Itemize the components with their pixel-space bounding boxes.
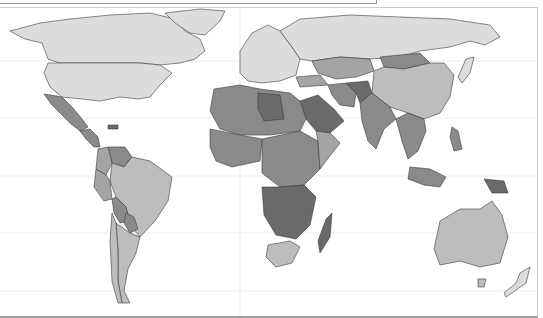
region-south-africa[interactable] — [266, 241, 300, 267]
region-southeast-asia[interactable] — [396, 113, 426, 159]
region-mexico[interactable] — [44, 94, 88, 131]
region-australia[interactable] — [434, 201, 508, 267]
region-north-africa[interactable] — [210, 85, 306, 135]
region-indonesia[interactable] — [408, 167, 446, 187]
region-papua-new-guinea[interactable] — [484, 179, 508, 193]
region-caribbean[interactable] — [108, 125, 118, 129]
region-peru[interactable] — [94, 169, 112, 201]
region-turkey[interactable] — [296, 75, 328, 87]
region-tasmania[interactable] — [478, 279, 486, 287]
region-central-america[interactable] — [80, 129, 100, 147]
world-map — [0, 8, 537, 316]
region-kazakhstan[interactable] — [312, 57, 374, 79]
top-panel-edge — [0, 0, 377, 4]
region-libya[interactable] — [258, 93, 284, 121]
region-russia[interactable] — [280, 15, 500, 61]
region-united-states[interactable] — [44, 63, 172, 101]
region-southern-africa[interactable] — [262, 185, 316, 239]
world-map-frame — [0, 7, 538, 318]
region-central-africa[interactable] — [262, 131, 320, 187]
region-philippines[interactable] — [450, 127, 462, 151]
region-horn-of-africa[interactable] — [316, 131, 340, 169]
region-new-zealand[interactable] — [504, 267, 530, 297]
